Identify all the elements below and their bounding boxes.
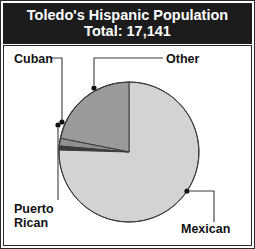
leader-line-cuban (50, 58, 62, 120)
label-mexican: Mexican (181, 223, 230, 237)
leader-dot-mexican (184, 188, 189, 193)
label-puerto-rican-line1: Puerto (14, 203, 54, 217)
leader-line-other (94, 58, 163, 85)
leader-dot-other (91, 85, 96, 90)
leader-dot-puerto-rican (55, 122, 60, 127)
label-other: Other (166, 53, 199, 67)
label-cuban: Cuban (14, 53, 53, 67)
leader-line-mexican (190, 191, 214, 222)
chart-figure: Toledo's Hispanic Population Total: 17,1… (0, 0, 255, 249)
label-puerto-rican-line2: Rican (14, 217, 54, 231)
label-puerto-rican: Puerto Rican (14, 203, 54, 230)
